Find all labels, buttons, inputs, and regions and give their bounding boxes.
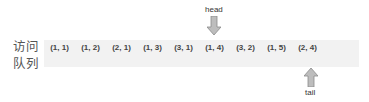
visit-queue: (1, 1) (1, 2) (2, 1) (1, 3) (3, 1) (1, 4… [44, 40, 359, 67]
queue-cell: (1, 2) [75, 40, 106, 67]
tail-label: tail [305, 88, 315, 97]
queue-label: 访问 队列 [13, 38, 43, 72]
queue-cell: (1, 3) [137, 40, 168, 67]
queue-cell-head: (1, 4) [199, 40, 230, 67]
queue-cell: (3, 1) [168, 40, 199, 67]
queue-cell: (1, 5) [261, 40, 292, 67]
queue-cell-tail: (2, 4) [292, 40, 323, 67]
queue-label-line-2: 队列 [13, 55, 43, 72]
head-arrow-down-icon [207, 16, 221, 36]
queue-cell-empty [323, 40, 354, 67]
tail-arrow-up-icon [304, 67, 318, 87]
queue-cell: (2, 1) [106, 40, 137, 67]
queue-cell: (1, 1) [44, 40, 75, 67]
head-label: head [205, 5, 223, 14]
queue-cell: (3, 2) [230, 40, 261, 67]
queue-label-line-1: 访问 [13, 38, 43, 55]
